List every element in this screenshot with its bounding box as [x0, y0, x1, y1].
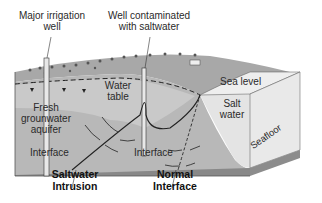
contaminated-well-label: Well contaminated with saltwater — [104, 10, 194, 32]
saltwater-intrusion-diagram: Major irrigation well Well contaminated … — [0, 0, 322, 203]
sea-level-label: Sea level — [220, 76, 261, 87]
salt-water-label-line2: water — [212, 109, 252, 120]
aquifer-label: Fresh grounwater aquifer — [16, 102, 76, 135]
irrigation-well-label-line2: well — [12, 21, 92, 32]
contaminated-well-label-line1: Well contaminated — [104, 10, 194, 21]
interface-mid-label: Interface — [134, 147, 173, 158]
irrigation-well-label: Major irrigation well — [12, 10, 92, 32]
aquifer-label-line1: Fresh — [16, 102, 76, 113]
normal-interface-label-line2: Interface — [140, 180, 210, 192]
saltwater-intrusion-label: Saltwater Intrusion — [40, 168, 110, 192]
normal-interface-label: Normal Interface — [140, 168, 210, 192]
contaminated-well — [142, 68, 146, 156]
interface-left-label: Interface — [30, 147, 69, 158]
house — [190, 60, 200, 65]
contaminated-well-label-line2: with saltwater — [104, 21, 194, 32]
water-table-label-line1: Water — [98, 80, 138, 91]
salt-water-label: Salt water — [212, 98, 252, 120]
water-table-label-line2: table — [98, 91, 138, 102]
saltwater-intrusion-label-line1: Saltwater — [40, 168, 110, 180]
salt-water-label-line1: Salt — [212, 98, 252, 109]
water-table-label: Water table — [98, 80, 138, 102]
normal-interface-label-line1: Normal — [140, 168, 210, 180]
aquifer-label-line2: grounwater — [16, 113, 76, 124]
aquifer-label-line3: aquifer — [16, 124, 76, 135]
irrigation-well-label-line1: Major irrigation — [12, 10, 92, 21]
saltwater-intrusion-label-line2: Intrusion — [40, 180, 110, 192]
